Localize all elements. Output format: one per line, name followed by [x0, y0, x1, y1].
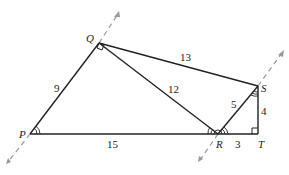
- geometry-diagram: Q P R S T 9 13 12 15 5 4 3: [0, 0, 289, 175]
- length-qr: 12: [168, 83, 179, 95]
- angle-arc-s-icon: [252, 93, 258, 94]
- label-t: T: [258, 138, 265, 150]
- segment-qr: [99, 43, 218, 134]
- length-st: 4: [261, 105, 267, 117]
- segment-qs: [99, 43, 258, 86]
- segment-pq: [30, 43, 99, 134]
- right-angle-t-icon: [252, 128, 258, 134]
- angle-arc-r-left-icon: [208, 127, 210, 134]
- arrow-icon: [114, 11, 120, 17]
- label-p: P: [18, 128, 26, 140]
- right-angle-q-icon: [97, 43, 104, 50]
- angle-arcs: [34, 91, 258, 134]
- length-rt: 3: [235, 138, 241, 150]
- segments: [30, 43, 258, 134]
- arrowheads: [6, 11, 284, 164]
- angle-arc-p-icon: [34, 128, 37, 134]
- dashed-lines: [8, 14, 282, 162]
- length-qs: 13: [180, 51, 192, 63]
- length-rs: 5: [231, 98, 237, 110]
- angle-arc-s-icon: [251, 95, 258, 96]
- dashed-extension-q: [99, 14, 118, 43]
- label-r: R: [215, 138, 223, 150]
- arrow-icon: [278, 50, 284, 57]
- label-q: Q: [86, 32, 94, 44]
- label-s: S: [261, 82, 267, 94]
- length-pq: 9: [54, 82, 60, 94]
- angle-arc-r-right-icon: [222, 129, 225, 134]
- length-pr: 15: [107, 138, 119, 150]
